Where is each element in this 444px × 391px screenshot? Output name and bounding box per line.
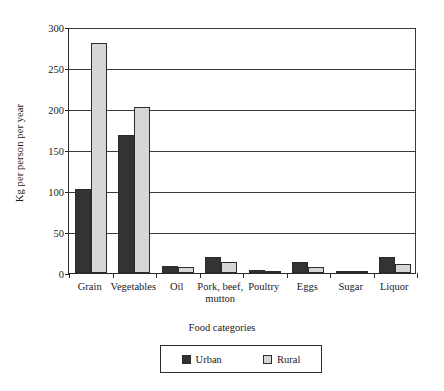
chart-legend: Urban Rural: [160, 345, 322, 373]
x-axis-tick-mark: [69, 273, 70, 278]
y-axis-title-label: Kg per person per year: [14, 30, 25, 276]
bar-rural-5: [308, 267, 324, 273]
bars-layer: [69, 28, 416, 273]
bar-urban-2: [162, 266, 178, 273]
x-axis-tick-mark: [287, 273, 288, 278]
bar-rural-3: [221, 262, 237, 273]
x-axis-tick-mark: [200, 273, 201, 278]
bar-rural-0: [91, 43, 107, 273]
bar-urban-6: [336, 271, 352, 273]
x-axis-tick-mark: [243, 273, 244, 278]
x-axis-tick-mark: [156, 273, 157, 278]
bar-chart-figure: Kg per person per year 05010015020025030…: [0, 0, 444, 391]
bar-urban-4: [249, 270, 265, 273]
y-axis-tick-label: 250: [48, 64, 64, 75]
bar-rural-1: [134, 107, 150, 273]
bar-urban-1: [118, 135, 134, 273]
bar-urban-0: [75, 189, 91, 273]
bar-rural-7: [395, 264, 411, 273]
x-axis-title: Food categories: [0, 322, 444, 333]
legend-label-rural: Rural: [277, 354, 300, 365]
plot-area: 050100150200250300: [68, 28, 416, 274]
legend-swatch-rural: [263, 355, 272, 364]
bar-urban-3: [205, 257, 221, 273]
y-axis-tick-label: 100: [48, 187, 64, 198]
bar-rural-4: [265, 271, 281, 273]
bar-urban-5: [292, 262, 308, 273]
legend-label-urban: Urban: [196, 354, 222, 365]
bar-rural-6: [352, 271, 368, 273]
y-axis-tick-label: 150: [48, 146, 64, 157]
bar-rural-2: [178, 267, 194, 273]
y-axis-tick-label: 300: [48, 23, 64, 34]
y-axis-title: Kg per person per year: [14, 0, 30, 30]
x-axis-category-label: Liquor: [367, 281, 423, 293]
x-axis-tick-mark: [330, 273, 331, 278]
legend-swatch-urban: [182, 355, 191, 364]
bar-urban-7: [379, 257, 395, 273]
y-axis-tick-label: 50: [54, 228, 65, 239]
legend-entry-rural: Rural: [263, 354, 300, 365]
x-axis-tick-mark: [113, 273, 114, 278]
legend-entry-urban: Urban: [182, 354, 222, 365]
y-axis-tick-label: 0: [59, 269, 64, 280]
y-axis-tick-label: 200: [48, 105, 64, 116]
x-axis-tick-mark: [417, 273, 418, 278]
x-axis-tick-mark: [374, 273, 375, 278]
